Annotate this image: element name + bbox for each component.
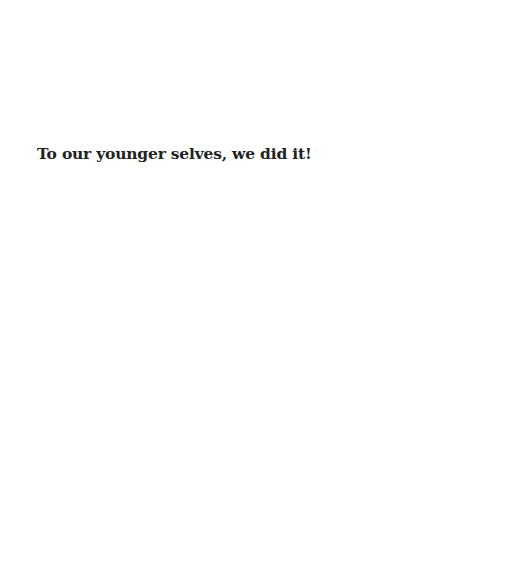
document-page: To our younger selves, we did it! <box>0 0 509 577</box>
dedication-text: To our younger selves, we did it! <box>37 143 311 165</box>
